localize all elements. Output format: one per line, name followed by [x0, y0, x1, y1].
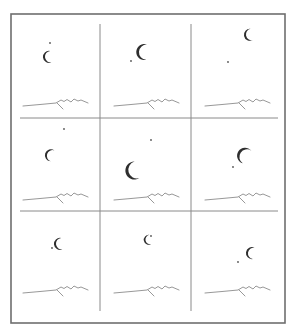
star-dot-icon: [130, 60, 132, 62]
star-dot-icon: [63, 128, 65, 130]
star-dot-icon: [237, 261, 239, 263]
star-dot-icon: [49, 42, 51, 44]
star-dot-icon: [51, 247, 53, 249]
star-dot-icon: [150, 235, 152, 237]
star-dot-icon: [150, 139, 152, 141]
background: [0, 0, 293, 332]
star-dot-icon: [232, 166, 234, 168]
moon-sketch-grid-figure: [0, 0, 293, 332]
star-dot-icon: [227, 61, 229, 63]
